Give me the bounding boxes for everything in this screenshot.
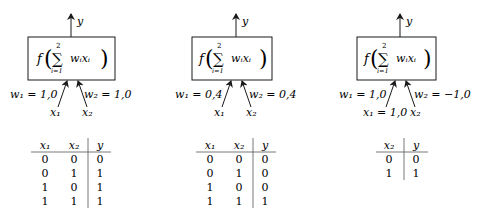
table-header: x₂ xyxy=(384,139,395,152)
table-header: x₁ xyxy=(205,139,216,152)
svg-text:0: 0 xyxy=(42,153,49,166)
right-paren: ) xyxy=(100,46,109,71)
panel-and: y f ( 2 ∑ i=1 wᵢxᵢ ) w₁ = 0,4 w₂ = 0,4 x… xyxy=(175,14,297,208)
table-row: 0 1 0 xyxy=(207,167,269,180)
input-x2-label: x₂ xyxy=(82,106,93,119)
svg-text:1: 1 xyxy=(97,195,104,208)
sum-term: wᵢxᵢ xyxy=(70,52,90,65)
svg-text:1: 1 xyxy=(42,195,49,208)
svg-text:0: 0 xyxy=(71,153,78,166)
function-symbol: f xyxy=(36,51,44,66)
svg-text:0: 0 xyxy=(42,167,49,180)
input-arrow-x1 xyxy=(222,81,231,107)
svg-text:0: 0 xyxy=(413,153,420,166)
svg-text:0: 0 xyxy=(386,153,393,166)
output-label: y xyxy=(405,15,413,28)
right-paren: ) xyxy=(259,46,268,71)
truth-table: x₂ y 0 0 1 1 xyxy=(376,138,428,180)
weight-w2-label: w₂ = 1,0 xyxy=(84,88,132,101)
table-header: x₂ xyxy=(234,139,245,152)
table-header: y xyxy=(412,139,420,152)
svg-text:0: 0 xyxy=(262,153,269,166)
truth-table: x₁ x₂ y 0 0 0 0 1 1 1 0 1 1 1 xyxy=(31,138,111,208)
svg-text:1: 1 xyxy=(207,195,214,208)
input-arrow-x1 xyxy=(386,81,395,107)
sum-lower-limit: i=1 xyxy=(377,67,389,75)
output-label: y xyxy=(76,15,84,28)
sigma-symbol: ∑ xyxy=(52,50,63,68)
sum-upper-limit: 2 xyxy=(217,42,221,50)
weight-w1-label: w₁ = 1,0 xyxy=(10,88,58,101)
svg-text:1: 1 xyxy=(413,167,420,180)
table-header: y xyxy=(96,139,104,152)
table-row: 0 0 0 xyxy=(207,153,269,166)
sum-term: wᵢxᵢ xyxy=(396,52,416,65)
svg-text:0: 0 xyxy=(207,167,214,180)
truth-table: x₁ x₂ y 0 0 0 0 1 0 1 0 0 1 1 xyxy=(196,138,276,208)
weight-w2-label: w₂ = −1,0 xyxy=(414,88,471,101)
svg-text:1: 1 xyxy=(71,195,78,208)
table-header: y xyxy=(261,139,269,152)
svg-text:1: 1 xyxy=(207,181,214,194)
table-row: 1 0 1 xyxy=(42,181,104,194)
svg-text:0: 0 xyxy=(262,181,269,194)
svg-text:1: 1 xyxy=(71,167,78,180)
table-header: x₂ xyxy=(69,139,80,152)
input-arrow-x1 xyxy=(58,81,67,107)
svg-text:1: 1 xyxy=(236,195,243,208)
sigma-symbol: ∑ xyxy=(378,50,389,68)
svg-text:1: 1 xyxy=(97,181,104,194)
table-row: 1 0 0 xyxy=(207,181,269,194)
sum-upper-limit: 2 xyxy=(382,42,386,50)
svg-text:1: 1 xyxy=(262,195,269,208)
table-header: x₁ xyxy=(40,139,51,152)
input-x1-label: x₁ xyxy=(214,106,225,119)
sum-lower-limit: i=1 xyxy=(212,67,224,75)
output-label: y xyxy=(241,15,249,28)
input-x1-label: x₁ xyxy=(50,106,61,119)
sigma-symbol: ∑ xyxy=(213,50,224,68)
panel-or: y f ( 2 ∑ i=1 wᵢxᵢ ) w₁ = 1,0 w₂ = 1,0 x… xyxy=(10,14,132,208)
activation-formula: f ( 2 ∑ i=1 wᵢxᵢ ) xyxy=(198,42,268,75)
right-paren: ) xyxy=(423,46,432,71)
input-x2-label: x₂ xyxy=(246,106,257,119)
svg-text:0: 0 xyxy=(262,167,269,180)
table-row: 1 1 1 xyxy=(42,195,104,208)
activation-formula: f ( 2 ∑ i=1 wᵢxᵢ ) xyxy=(363,42,432,75)
svg-text:0: 0 xyxy=(236,181,243,194)
svg-text:1: 1 xyxy=(236,167,243,180)
svg-text:1: 1 xyxy=(386,167,393,180)
sum-term: wᵢxᵢ xyxy=(231,52,251,65)
svg-text:0: 0 xyxy=(71,181,78,194)
table-row: 1 1 xyxy=(386,167,420,180)
panel-fixed-x1: y f ( 2 ∑ i=1 wᵢxᵢ ) w₁ = 1,0 w₂ = −1,0 … xyxy=(339,14,471,180)
sum-upper-limit: 2 xyxy=(56,42,60,50)
svg-text:1: 1 xyxy=(42,181,49,194)
svg-text:1: 1 xyxy=(97,167,104,180)
svg-text:0: 0 xyxy=(207,153,214,166)
table-row: 0 0 xyxy=(386,153,420,166)
sum-lower-limit: i=1 xyxy=(51,67,63,75)
weight-w2-label: w₂ = 0,4 xyxy=(249,88,297,101)
input-x1-label: x₁ = 1,0 xyxy=(363,106,407,119)
svg-text:0: 0 xyxy=(236,153,243,166)
svg-text:0: 0 xyxy=(97,153,104,166)
table-row: 1 1 1 xyxy=(207,195,269,208)
input-x2-label: x₂ xyxy=(410,106,421,119)
table-row: 0 1 1 xyxy=(42,167,104,180)
activation-formula: f ( 2 ∑ i=1 wᵢxᵢ ) xyxy=(36,42,109,75)
weight-w1-label: w₁ = 1,0 xyxy=(339,88,387,101)
table-row: 0 0 0 xyxy=(42,153,104,166)
perceptron-diagram: y f ( 2 ∑ i=1 wᵢxᵢ ) w₁ = 1,0 w₂ = 1,0 x… xyxy=(0,0,481,217)
weight-w1-label: w₁ = 0,4 xyxy=(175,88,223,101)
